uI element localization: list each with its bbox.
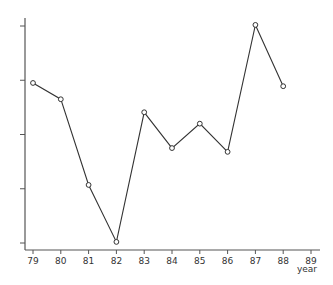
data-point-marker — [170, 146, 175, 151]
data-point-marker — [58, 97, 63, 102]
x-tick-label: 80 — [55, 256, 67, 266]
x-tick-label: 79 — [27, 256, 39, 266]
data-point-marker — [114, 240, 119, 245]
x-axis: 7980818283848586878889 — [25, 250, 320, 266]
data-point-marker — [31, 81, 36, 86]
x-axis-label: year — [297, 264, 317, 274]
y-axis — [20, 18, 25, 250]
x-tick-label: 87 — [250, 256, 261, 266]
data-point-marker — [86, 183, 91, 188]
data-point-marker — [225, 149, 230, 154]
x-tick-label: 86 — [222, 256, 234, 266]
x-tick-label: 88 — [277, 256, 289, 266]
x-tick-label: 85 — [194, 256, 205, 266]
line-chart: 7980818283848586878889 year — [0, 0, 333, 285]
series-line — [33, 25, 283, 242]
data-point-marker — [253, 23, 258, 28]
chart-canvas: 7980818283848586878889 year — [0, 0, 333, 285]
data-point-marker — [281, 84, 286, 89]
x-tick-label: 83 — [138, 256, 149, 266]
x-tick-label: 84 — [166, 256, 178, 266]
data-point-marker — [142, 110, 147, 115]
data-point-marker — [197, 121, 202, 126]
x-tick-label: 82 — [111, 256, 122, 266]
data-series — [31, 23, 286, 245]
x-tick-label: 81 — [83, 256, 94, 266]
